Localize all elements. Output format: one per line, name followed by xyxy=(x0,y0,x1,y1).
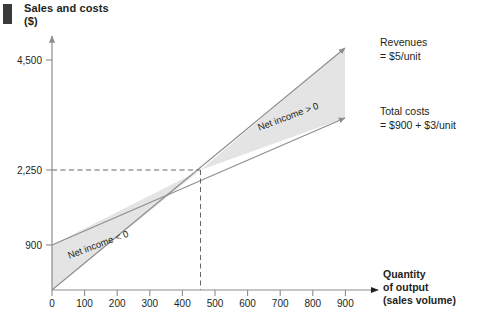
x-axis-title: Quantity of output (sales volume) xyxy=(383,268,456,307)
x-tick-label-300: 300 xyxy=(141,298,158,309)
x-tick-label-100: 100 xyxy=(76,298,93,309)
x-tick-label-800: 800 xyxy=(304,298,321,309)
x-tick-label-900: 900 xyxy=(337,298,354,309)
y-tick-label-2250: 2,250 xyxy=(0,165,42,176)
x-tick-label-700: 700 xyxy=(272,298,289,309)
x-tick-label-0: 0 xyxy=(49,298,55,309)
revenues-annotation: Revenues = $5/unit xyxy=(380,36,427,63)
x-tick-label-400: 400 xyxy=(174,298,191,309)
y-tick-label-900: 900 xyxy=(0,240,42,251)
revenues-line xyxy=(52,48,345,290)
x-tick-label-500: 500 xyxy=(207,298,224,309)
y-tick-label-4500: 4,500 xyxy=(0,55,42,66)
figure-container: Sales and costs ($) xyxy=(0,0,486,327)
x-tick-label-600: 600 xyxy=(239,298,256,309)
total-costs-annotation: Total costs = $900 + $3/unit xyxy=(380,105,456,132)
x-ticks xyxy=(52,290,345,296)
total-costs-line xyxy=(52,118,345,245)
x-tick-label-200: 200 xyxy=(109,298,126,309)
